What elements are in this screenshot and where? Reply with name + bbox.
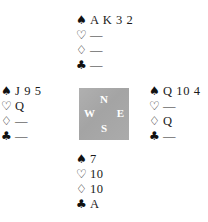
hand-east-hearts: — <box>162 99 176 114</box>
compass-east-label: E <box>117 108 124 119</box>
club-icon: ♣ <box>76 58 89 73</box>
hand-west-heart-row: ♡ Q <box>1 99 42 114</box>
spade-icon: ♠ <box>76 13 89 28</box>
hand-east-diamond-row: ♢ Q <box>149 114 201 129</box>
hand-south-clubs: A <box>89 197 100 212</box>
heart-icon: ♡ <box>149 99 162 114</box>
diamond-icon: ♢ <box>76 43 89 58</box>
hand-west-clubs: — <box>14 129 28 144</box>
hand-west-diamond-row: ♢ — <box>1 114 42 129</box>
diamond-icon: ♢ <box>149 114 162 129</box>
compass-south-label: S <box>79 123 129 134</box>
hand-north-diamond-row: ♢ — <box>76 43 133 58</box>
diamond-icon: ♢ <box>1 114 14 129</box>
hand-south: ♠ 7 ♡ 10 ♢ 10 ♣ A <box>76 152 104 212</box>
hand-west-spades: J 9 5 <box>14 84 42 99</box>
hand-north-spade-row: ♠ A K 3 2 <box>76 13 133 28</box>
hand-north-spades: A K 3 2 <box>89 13 133 28</box>
hand-east-clubs: — <box>162 129 176 144</box>
bridge-deal-diagram: ♠ A K 3 2 ♡ — ♢ — ♣ — ♠ J 9 5 ♡ Q ♢ — <box>0 0 208 222</box>
club-icon: ♣ <box>76 197 89 212</box>
hand-south-hearts: 10 <box>89 167 104 182</box>
hand-north-heart-row: ♡ — <box>76 28 133 43</box>
spade-icon: ♠ <box>149 84 162 99</box>
spade-icon: ♠ <box>76 152 89 167</box>
hand-east-club-row: ♣ — <box>149 129 201 144</box>
diamond-icon: ♢ <box>76 182 89 197</box>
hand-east-spades: Q 10 4 <box>162 84 201 99</box>
club-icon: ♣ <box>1 129 14 144</box>
hand-south-diamond-row: ♢ 10 <box>76 182 104 197</box>
hand-west: ♠ J 9 5 ♡ Q ♢ — ♣ — <box>1 84 42 144</box>
hand-west-diamonds: — <box>14 114 28 129</box>
hand-south-spades: 7 <box>89 152 97 167</box>
club-icon: ♣ <box>149 129 162 144</box>
hand-north-clubs: — <box>89 58 103 73</box>
hand-north-diamonds: — <box>89 43 103 58</box>
spade-icon: ♠ <box>1 84 14 99</box>
hand-east-diamonds: Q <box>162 114 173 129</box>
compass-west-label: W <box>84 108 95 119</box>
hand-west-club-row: ♣ — <box>1 129 42 144</box>
hand-south-diamonds: 10 <box>89 182 104 197</box>
heart-icon: ♡ <box>76 167 89 182</box>
compass-box: N W E S <box>79 88 129 140</box>
hand-west-spade-row: ♠ J 9 5 <box>1 84 42 99</box>
hand-east-spade-row: ♠ Q 10 4 <box>149 84 201 99</box>
hand-south-heart-row: ♡ 10 <box>76 167 104 182</box>
hand-north-hearts: — <box>89 28 103 43</box>
hand-east-heart-row: ♡ — <box>149 99 201 114</box>
heart-icon: ♡ <box>1 99 14 114</box>
hand-south-spade-row: ♠ 7 <box>76 152 104 167</box>
hand-south-club-row: ♣ A <box>76 197 104 212</box>
heart-icon: ♡ <box>76 28 89 43</box>
hand-east: ♠ Q 10 4 ♡ — ♢ Q ♣ — <box>149 84 201 144</box>
compass-north-label: N <box>79 94 129 105</box>
hand-north: ♠ A K 3 2 ♡ — ♢ — ♣ — <box>76 13 133 73</box>
hand-west-hearts: Q <box>14 99 25 114</box>
hand-north-club-row: ♣ — <box>76 58 133 73</box>
